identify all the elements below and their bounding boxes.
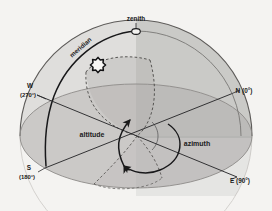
west-label: W [27,82,34,89]
east-label: E (90°) [230,177,250,185]
altitude-label: altitude [80,131,105,138]
zenith-label: zenith [127,15,146,22]
south-degrees-label: (180°) [19,174,35,180]
sun-icon [90,57,105,72]
azimuth-label: azimuth [184,140,210,147]
zenith-point-icon [132,29,141,35]
diagram-canvas: zenith meridian altitude azimuth W (270°… [0,0,272,211]
north-label: N (0°) [236,87,253,95]
celestial-sphere-diagram: zenith meridian altitude azimuth W (270°… [0,0,272,211]
south-label: S [27,164,32,171]
west-degrees-label: (270°) [20,92,36,98]
